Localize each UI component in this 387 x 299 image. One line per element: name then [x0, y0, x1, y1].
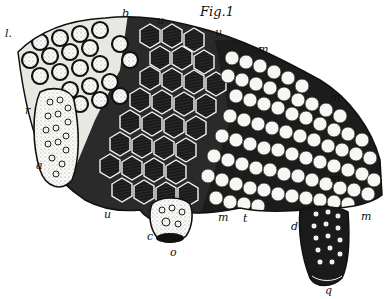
figure-title: Fig.1	[200, 4, 234, 19]
label-o: o	[170, 247, 177, 258]
label-u-top-1: u	[157, 15, 164, 26]
label-c: c	[147, 231, 153, 242]
label-m-top: m	[258, 44, 268, 55]
label-l: l.	[5, 28, 12, 39]
label-t: t	[243, 213, 247, 224]
label-u-bottom: u	[104, 209, 111, 220]
label-b: b	[122, 8, 129, 19]
honeycomb-illustration	[0, 0, 387, 299]
label-a: a	[36, 160, 43, 171]
label-m-right-1: m	[330, 92, 340, 103]
queen-cell-d	[299, 206, 348, 285]
label-m-bottom-right: m	[361, 211, 371, 222]
label-q: q	[325, 285, 332, 296]
label-m-right-2: m	[330, 173, 340, 184]
label-u-top-2: u	[215, 27, 222, 38]
queen-cell-c	[150, 198, 192, 243]
label-r: r	[25, 105, 30, 116]
label-m-bottom: m	[218, 212, 228, 223]
queen-cell-a	[34, 89, 78, 187]
label-d: d	[291, 221, 298, 232]
